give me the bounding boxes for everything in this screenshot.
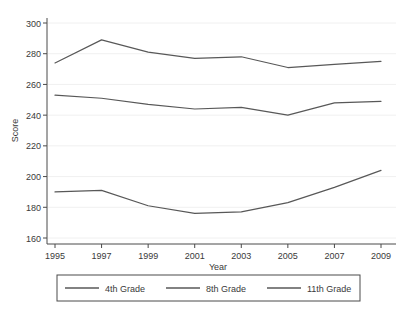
y-tick-label-280: 280 — [26, 49, 41, 59]
x-tick-label-1999: 1999 — [138, 251, 158, 261]
y-axis-title: Score — [10, 119, 20, 143]
legend-label-4th-grade[interactable]: 4th Grade — [105, 284, 145, 294]
x-tick-label-2001: 2001 — [185, 251, 205, 261]
x-tick-label-1997: 1997 — [92, 251, 112, 261]
chart-figure: 1601802002202402602803001995199719992001… — [0, 0, 407, 311]
legend: 4th Grade8th Grade11th Grade — [57, 275, 360, 301]
series-line-8th-grade[interactable] — [55, 95, 381, 115]
legend-label-11th-grade[interactable]: 11th Grade — [307, 284, 351, 294]
x-tick-label-2009: 2009 — [371, 251, 391, 261]
series-group — [55, 40, 381, 214]
y-tick-label-240: 240 — [26, 111, 41, 121]
y-tick-label-180: 180 — [26, 203, 41, 213]
gridlines — [48, 23, 396, 238]
legend-label-8th-grade[interactable]: 8th Grade — [206, 284, 246, 294]
axis-lines — [47, 18, 396, 244]
x-tick-label-2005: 2005 — [278, 251, 298, 261]
x-tick-label-2007: 2007 — [324, 251, 344, 261]
x-tick-label-2003: 2003 — [231, 251, 251, 261]
x-axis-ticks: 19951997199920012003200520072009 — [45, 244, 391, 261]
y-tick-label-200: 200 — [26, 172, 41, 182]
line-chart: 1601802002202402602803001995199719992001… — [0, 0, 407, 311]
x-axis-title: Year — [209, 262, 227, 272]
y-tick-label-300: 300 — [26, 19, 41, 29]
y-tick-label-220: 220 — [26, 141, 41, 151]
y-axis-ticks: 160180200220240260280300 — [26, 19, 47, 244]
y-tick-label-260: 260 — [26, 80, 41, 90]
y-tick-label-160: 160 — [26, 234, 41, 244]
x-tick-label-1995: 1995 — [45, 251, 65, 261]
